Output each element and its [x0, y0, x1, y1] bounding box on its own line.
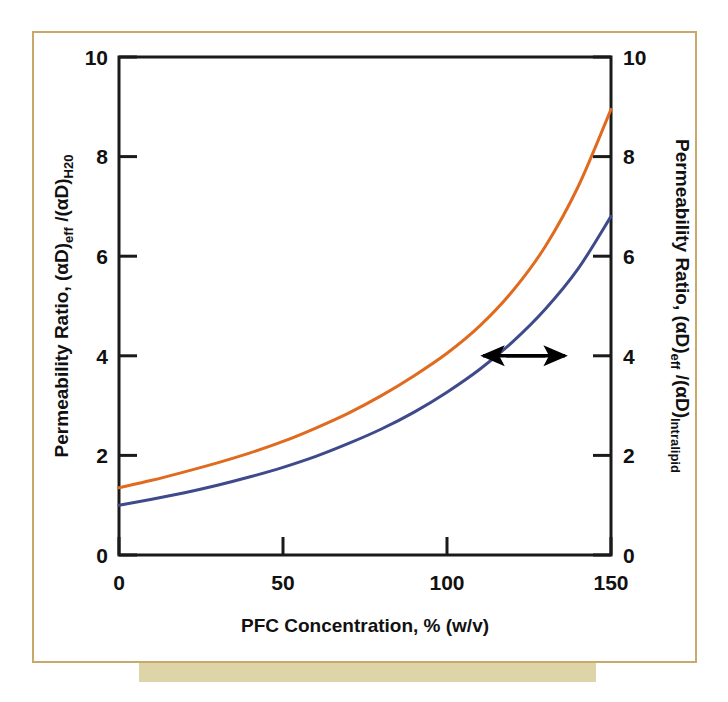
y-right-tick-4: 4 — [623, 345, 635, 368]
y-left-title-part1: Permeability Ratio, (αD) — [51, 243, 72, 457]
y-right-tick-2: 2 — [623, 444, 635, 467]
y-right-tick-6: 6 — [623, 245, 635, 268]
y-left-title-sub2: H20 — [61, 155, 76, 179]
y-left-tick-4: 4 — [96, 345, 108, 368]
y-right-tick-8: 8 — [623, 145, 635, 168]
y-right-tick-0: 0 — [623, 544, 635, 567]
plot-area-border — [119, 57, 611, 555]
y-axis-right-title: Permeability Ratio, (αD)eff /(αD)Intrali… — [668, 139, 693, 473]
y-left-title-part2: /(αD) — [51, 178, 72, 227]
y-axis-left-title: Permeability Ratio, (αD)eff /(αD)H20 — [51, 155, 76, 458]
x-axis-tick-labels: 0 50 100 150 — [113, 571, 628, 594]
x-tick-0: 0 — [113, 571, 125, 594]
x-tick-50: 50 — [271, 571, 294, 594]
x-tick-150: 150 — [593, 571, 628, 594]
y-right-title-sub2: Intralipid — [668, 418, 683, 473]
y-left-title-sub1: eff — [61, 226, 76, 243]
x-axis-title: PFC Concentration, % (w/v) — [241, 615, 489, 636]
y-left-tick-10: 10 — [85, 46, 108, 69]
y-right-title-sub1: eff — [668, 353, 683, 370]
y-right-title-part1: Permeability Ratio, (αD) — [672, 139, 693, 353]
y-left-tick-8: 8 — [96, 145, 108, 168]
chart-plot: 0 2 4 6 8 10 0 2 4 6 8 10 0 50 100 150 P… — [0, 0, 728, 702]
y-right-title-part2: /(αD) — [672, 369, 693, 418]
y-right-tick-10: 10 — [623, 46, 646, 69]
x-tick-100: 100 — [429, 571, 464, 594]
y-axis-right-tick-labels: 0 2 4 6 8 10 — [623, 46, 646, 567]
y-left-tick-0: 0 — [96, 544, 108, 567]
y-axis-left-tick-labels: 0 2 4 6 8 10 — [85, 46, 109, 567]
y-left-tick-2: 2 — [96, 444, 108, 467]
y-left-tick-6: 6 — [96, 245, 108, 268]
